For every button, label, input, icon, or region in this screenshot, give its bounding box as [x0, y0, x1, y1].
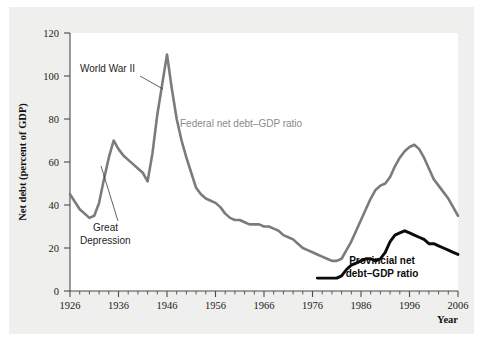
x-tick-label-2006: 2006 — [448, 300, 469, 311]
x-axis-ticks — [70, 291, 458, 297]
y-axis-title: Net debt (percent of GDP) — [17, 103, 29, 221]
x-tick-label-1976: 1976 — [302, 300, 323, 311]
x-tick-label-1936: 1936 — [108, 300, 129, 311]
y-tick-label-80: 80 — [49, 114, 60, 125]
annotation-provincial-series-label-line1: Provincial net — [349, 255, 415, 266]
x-tick-label-1956: 1956 — [205, 300, 226, 311]
annotation-great-depression-line2: Depression — [80, 235, 131, 246]
chart-figure: Net debt (percent of GDP) 0 20 40 60 80 … — [0, 0, 483, 343]
annotation-leader-great-depression — [101, 166, 118, 221]
y-tick-label-120: 120 — [43, 28, 59, 39]
y-tick-label-40: 40 — [49, 200, 60, 211]
series-line-federal — [70, 55, 458, 261]
y-axis-ticks — [64, 33, 70, 291]
x-tick-label-1946: 1946 — [157, 300, 178, 311]
annotation-federal-series-label: Federal net debt–GDP ratio — [180, 118, 303, 129]
annotation-great-depression-line1: Great — [93, 222, 118, 233]
annotation-provincial-series-label-line2: debt–GDP ratio — [346, 268, 419, 279]
x-tick-label-1986: 1986 — [351, 300, 372, 311]
annotation-leader-world-war-2 — [140, 76, 163, 89]
x-axis-title: Year — [437, 314, 458, 325]
x-axis-tick-labels: 192619361946195619661976198619962006 — [60, 300, 469, 311]
y-axis-tick-labels: 0 20 40 60 80 100 120 — [43, 28, 59, 297]
x-tick-label-1966: 1966 — [254, 300, 275, 311]
y-tick-label-20: 20 — [49, 243, 60, 254]
x-tick-label-1926: 1926 — [60, 300, 81, 311]
annotation-world-war-2: World War II — [80, 63, 135, 74]
line-chart: Net debt (percent of GDP) 0 20 40 60 80 … — [0, 0, 483, 343]
y-tick-label-100: 100 — [43, 71, 59, 82]
y-tick-label-60: 60 — [49, 157, 60, 168]
x-tick-label-1996: 1996 — [399, 300, 420, 311]
y-tick-label-0: 0 — [54, 286, 59, 297]
